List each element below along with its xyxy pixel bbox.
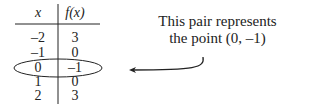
annotation-line-1: This pair represents [150,13,285,30]
cell-x-highlighted: 0 [23,61,53,75]
cell-fx: 0 [60,75,90,89]
cell-fx: 3 [60,31,90,45]
header-fx: f(x) [60,6,90,20]
cell-x: –1 [23,46,53,60]
cell-fx: 3 [60,89,90,103]
arrow-curve [132,57,203,70]
cell-fx: 0 [60,46,90,60]
cell-x: 2 [23,89,53,103]
cell-x: –2 [23,31,53,45]
cell-fx-highlighted: –1 [60,61,90,75]
annotation-text: This pair represents the point (0, –1) [150,13,285,47]
annotation-line-2: the point (0, –1) [150,30,285,47]
cell-x: 1 [23,75,53,89]
header-x: x [23,6,53,20]
